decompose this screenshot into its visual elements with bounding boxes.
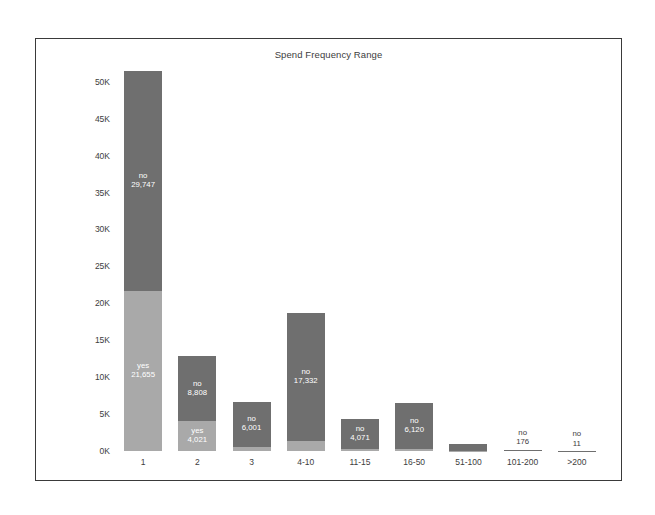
bar-stack[interactable]: no4,071 (341, 419, 379, 451)
x-axis-tick: 11-15 (349, 457, 370, 467)
bar-segment-label-value: 6,001 (242, 424, 262, 433)
bar-stack[interactable] (449, 444, 487, 451)
bar-stack[interactable]: no6,001 (233, 402, 271, 451)
bar-stack[interactable]: no29,747yes21,655 (124, 71, 162, 451)
bar-segment-no[interactable]: no8,808 (178, 356, 216, 421)
bar-group: no6,001 (224, 67, 278, 451)
bar-group: no6,120 (387, 67, 441, 451)
y-axis-tick: 20K (95, 298, 110, 308)
bar-segment-label-name: yes (137, 362, 149, 371)
bar-segment-yes[interactable]: yes21,655 (124, 291, 162, 451)
x-axis-tick: 3 (249, 457, 254, 467)
bar-segment-label-name: no (356, 425, 365, 434)
bar-group: no176 (496, 67, 550, 451)
y-axis-tick: 35K (95, 188, 110, 198)
bar-stack[interactable]: no8,808yes4,021 (178, 356, 216, 451)
bar-segment-label-value: 6,120 (404, 426, 424, 435)
bar-outside-label: no176 (516, 428, 529, 447)
bar-segment-no[interactable]: no6,001 (233, 402, 271, 446)
chart-title: Spend Frequency Range (36, 49, 621, 60)
bars-layer: no29,747yes21,655no8,808yes4,021no6,001n… (116, 67, 604, 451)
x-axis-tick: 101-200 (507, 457, 538, 467)
y-axis-tick: 30K (95, 224, 110, 234)
y-axis-tick: 5K (100, 409, 110, 419)
x-axis-tick: 16-50 (403, 457, 425, 467)
bar-segment-label-value: 21,655 (131, 371, 155, 380)
bar-segment-label-value: 4,021 (188, 436, 208, 445)
bar-segment-label-value: 4,071 (350, 434, 370, 443)
bar-segment-no[interactable]: no17,332 (287, 313, 325, 441)
bar-segment-label-value: 29,747 (131, 181, 155, 190)
bar-segment-label-name: no (301, 368, 310, 377)
bar-segment-label-value: 8,808 (188, 389, 208, 398)
bar-group: no11 (550, 67, 604, 451)
bar-segment-label-name: no (139, 172, 148, 181)
bar-segment-no[interactable]: no4,071 (341, 419, 379, 449)
bar-outside-label-name: no (516, 428, 529, 437)
bar-stack[interactable]: no6,120 (395, 403, 433, 451)
bar-segment-label-name: no (193, 380, 202, 389)
bar-segment-label-value: 17,332 (294, 377, 318, 386)
y-axis-tick: 15K (95, 335, 110, 345)
bar-segment-label-name: no (410, 417, 419, 426)
bar-group: no8,808yes4,021 (170, 67, 224, 451)
bar-segment-label-name: no (247, 415, 256, 424)
x-axis-tick: 51-100 (455, 457, 481, 467)
x-axis-tick: 2 (195, 457, 200, 467)
bar-outside-label-value: 11 (573, 439, 582, 448)
bar-outside-label-name: no (573, 429, 582, 438)
y-axis-tick: 45K (95, 114, 110, 124)
y-axis-tick: 40K (95, 151, 110, 161)
y-axis-tick: 50K (95, 77, 110, 87)
bar-group: no4,071 (333, 67, 387, 451)
bar-segment-yes[interactable]: yes4,021 (178, 421, 216, 451)
chart-frame: Spend Frequency Range Count of Churner 0… (35, 38, 622, 481)
bar-segment-yes[interactable] (287, 441, 325, 451)
bar-group: no17,332 (279, 67, 333, 451)
bar-segment-label-name: yes (191, 427, 203, 436)
y-axis-tick: 0K (100, 446, 110, 456)
x-axis-tick: 4-10 (297, 457, 314, 467)
bar-stack[interactable]: no17,332 (287, 313, 325, 451)
bar-group: no29,747yes21,655 (116, 67, 170, 451)
x-axis-tick: 1 (141, 457, 146, 467)
bar-segment-no[interactable] (449, 444, 487, 451)
plot-area: Count of Churner 0K5K10K15K20K25K30K35K4… (116, 67, 604, 451)
bar-segment-no[interactable]: no29,747 (124, 71, 162, 291)
x-axis-tick-labels: 1234-1011-1516-5051-100101-200>200 (116, 451, 604, 473)
bar-group (441, 67, 495, 451)
bar-outside-label: no11 (573, 429, 582, 448)
y-axis-tick: 25K (95, 261, 110, 271)
bar-segment-no[interactable]: no6,120 (395, 403, 433, 448)
y-axis-tick: 10K (95, 372, 110, 382)
bar-outside-label-value: 176 (516, 437, 529, 446)
x-axis-tick: >200 (567, 457, 586, 467)
